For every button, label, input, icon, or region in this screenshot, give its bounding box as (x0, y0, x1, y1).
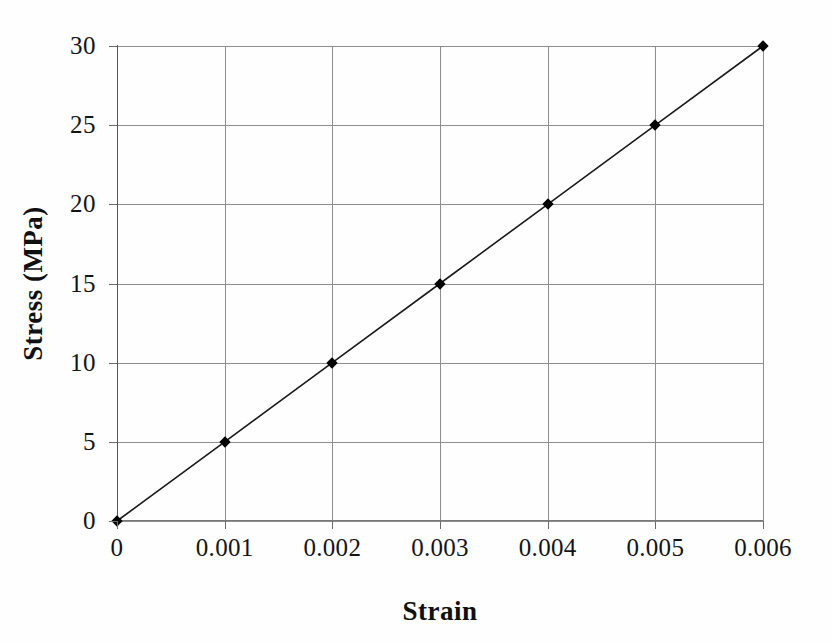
x-axis-tick-label: 0 (57, 535, 177, 560)
y-axis-tick (109, 521, 117, 522)
y-axis-tick (109, 284, 117, 285)
x-axis-tick (117, 521, 118, 529)
y-axis-tick-label: 0 (83, 508, 96, 533)
x-axis-tick-label: 0.005 (595, 535, 715, 560)
x-axis-tick (548, 521, 549, 529)
y-axis-tick-label: 5 (83, 429, 96, 454)
y-axis-tick (109, 46, 117, 47)
x-axis-tick-label: 0.002 (272, 535, 392, 560)
x-axis-tick (332, 521, 333, 529)
chart-page: Stress (MPa) 051015202530 00.0010.0020.0… (0, 0, 831, 642)
y-axis-tick-label: 25 (70, 112, 96, 137)
y-axis-tick (109, 125, 117, 126)
x-axis-tick (440, 521, 441, 529)
y-axis-tick (109, 204, 117, 205)
y-axis-tick (109, 363, 117, 364)
x-axis-tick-label: 0.003 (380, 535, 500, 560)
y-axis-title: Stress (MPa) (10, 46, 56, 521)
y-axis-tick (109, 442, 117, 443)
x-axis-tick-label: 0.004 (488, 535, 608, 560)
x-axis-tick (763, 521, 764, 529)
plot-area (117, 46, 763, 521)
x-axis-tick (655, 521, 656, 529)
y-axis-tick-label: 30 (70, 33, 96, 58)
y-axis-tick-label: 20 (70, 191, 96, 216)
x-axis-tick (225, 521, 226, 529)
x-axis-tick-label: 0.001 (165, 535, 285, 560)
x-axis-tick-label: 0.006 (703, 535, 823, 560)
grid-line-vertical (763, 46, 764, 521)
y-axis-tick-label: 10 (70, 350, 96, 375)
y-axis-tick-label: 15 (70, 271, 96, 296)
x-axis-title: Strain (117, 596, 763, 627)
